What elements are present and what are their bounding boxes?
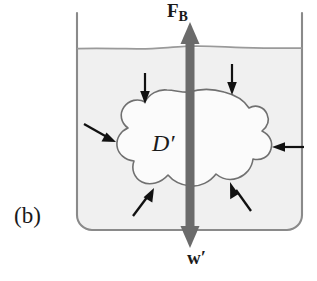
double-arrow-head-down (181, 226, 200, 248)
figure-buoyancy-panel-b: (b) FB w′ D′ (0, 0, 317, 281)
weight-label: w′ (187, 248, 206, 267)
panel-label: (b) (14, 204, 41, 227)
buoyant-force-symbol: F (167, 0, 179, 21)
double-arrow-shaft (186, 34, 195, 236)
buoyant-force-subscript: B (179, 9, 188, 24)
buoyant-force-label: FB (167, 1, 188, 20)
submerged-body-label: D′ (152, 131, 175, 155)
double-arrow-head-up (181, 22, 200, 44)
